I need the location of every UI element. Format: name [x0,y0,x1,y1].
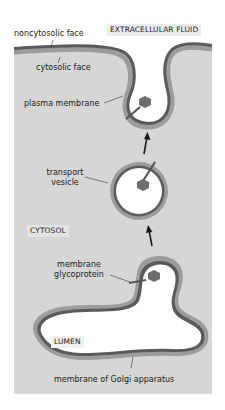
label-golgi-membrane: membrane of Golgi apparatus [54,375,174,385]
label-glycoprotein-line1: membrane [48,260,110,270]
label-cytosolic-face: cytosolic face [36,63,91,73]
label-transport-vesicle-line2: vesicle [42,178,88,188]
label-membrane-glycoprotein: membrane glycoprotein [48,260,110,279]
label-noncytosolic-face: noncytosolic face [14,29,84,39]
label-transport-vesicle-line1: transport [42,168,88,178]
label-glycoprotein-line2: glycoprotein [48,270,110,280]
transport-vesicle [110,162,168,220]
region-cytosol: CYTOSOL [27,225,69,237]
label-plasma-membrane: plasma membrane [24,99,99,109]
region-lumen: LUMEN [51,336,84,348]
exocytosis-diagram [0,0,225,410]
label-transport-vesicle: transport vesicle [42,168,88,187]
region-extracellular-fluid: EXTRACELLULAR FLUID [107,24,201,36]
